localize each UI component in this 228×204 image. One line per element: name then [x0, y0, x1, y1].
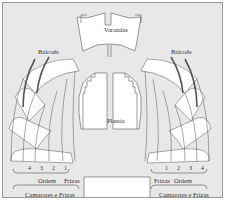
balcoes-right-label: Balcoês [171, 49, 192, 56]
right-order-2: 2 [177, 165, 180, 171]
seating-diagram: Varandas Balcoês Balcoês Plateia 4 3 2 1… [2, 2, 223, 198]
right-ordem-label: Ordem [174, 178, 192, 185]
left-frizas-label: Frizas [64, 178, 80, 185]
right-order-3: 3 [189, 165, 192, 171]
balcoes-left-label: Balcoês [38, 49, 59, 56]
left-order-1: 1 [64, 165, 67, 171]
left-seating-grid [9, 59, 79, 163]
right-frizas-label: Frizas [154, 178, 170, 185]
left-order-2: 2 [52, 165, 55, 171]
right-group-label: Camarotes e Frizas [159, 192, 209, 198]
left-ordem-label: Ordem [38, 178, 56, 185]
right-seating-grid [141, 59, 211, 163]
stage-area [84, 177, 150, 198]
right-order-1: 1 [165, 165, 168, 171]
plateia-label: Plateia [107, 118, 125, 125]
left-order-3: 3 [40, 165, 43, 171]
right-order-4: 4 [201, 165, 204, 171]
left-order-4: 4 [28, 165, 31, 171]
left-group-label: Camarotes e Frizas [25, 192, 75, 198]
varandas-label: Varandas [104, 27, 128, 34]
